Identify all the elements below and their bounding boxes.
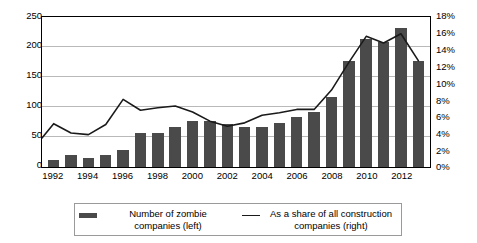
x-axis-tick: 2002 [217, 170, 238, 181]
bar-swatch-icon [79, 213, 97, 218]
bar [222, 124, 233, 167]
bar-slot [201, 17, 218, 167]
y-right-tick: 14% [436, 45, 476, 55]
x-axis-tick: 2006 [287, 170, 308, 181]
chart-figure: 250 200 150 100 50 0 18% 16% 14% 12% 10%… [0, 0, 477, 243]
bar-slot [149, 17, 166, 167]
bar-slot [80, 17, 97, 167]
bar-slot [97, 17, 114, 167]
line-swatch-icon [242, 215, 260, 216]
y-left-tick: 0 [6, 160, 42, 170]
bar [291, 117, 302, 167]
bar-slot [45, 17, 62, 167]
bar [413, 61, 424, 167]
legend-label-line-line1: As a share of all construction [270, 208, 392, 219]
x-axis: 1992199419961998200020022004200620082010… [41, 170, 431, 184]
y-right-tick: 8% [436, 96, 476, 106]
x-axis-tick: 1998 [147, 170, 168, 181]
bar [135, 133, 146, 167]
bar [343, 61, 354, 167]
y-left-tick: 200 [6, 40, 42, 50]
bar [395, 28, 406, 167]
y-right-tick: 6% [436, 112, 476, 122]
x-axis-tick: 2004 [252, 170, 273, 181]
bar-slot [62, 17, 79, 167]
y-right-tick: 10% [436, 79, 476, 89]
y-left-tick: 50 [6, 130, 42, 140]
x-axis-tick: 2010 [356, 170, 377, 181]
bar-slot [323, 17, 340, 167]
bar-slot [392, 17, 409, 167]
bar [83, 158, 94, 167]
bar-slot [114, 17, 131, 167]
y-right-tick: 18% [436, 11, 476, 21]
bar [117, 150, 128, 167]
y-right-tick: 0% [436, 162, 476, 172]
y-right-tick: 12% [436, 62, 476, 72]
bar [48, 160, 59, 167]
bar [308, 112, 319, 167]
x-axis-tick: 1994 [77, 170, 98, 181]
x-axis-tick: 2012 [391, 170, 412, 181]
bar [256, 127, 267, 167]
bar-slot [357, 17, 374, 167]
chart-legend: Number of zombie companies (left) As a s… [74, 203, 402, 236]
bar-slot [167, 17, 184, 167]
legend-label-bars-line2: companies (left) [134, 220, 202, 231]
legend-label-line-line2: companies (right) [294, 220, 367, 231]
bar [169, 127, 180, 167]
x-axis-tick: 1996 [112, 170, 133, 181]
bar [239, 127, 250, 167]
bar-slot [132, 17, 149, 167]
x-axis-tick: 2000 [182, 170, 203, 181]
y-right-tick: 4% [436, 129, 476, 139]
legend-item-bars: Number of zombie companies (left) [75, 208, 238, 231]
y-right-tick: 2% [436, 146, 476, 156]
y-left-tick: 250 [6, 11, 42, 21]
bar-slot [271, 17, 288, 167]
legend-label-bars-line1: Number of zombie [129, 208, 207, 219]
plot-area [41, 16, 431, 168]
y-right-tick: 16% [436, 28, 476, 38]
legend-item-line: As a share of all construction companies… [238, 208, 401, 231]
bar-slot [340, 17, 357, 167]
bar [152, 133, 163, 167]
bar [378, 42, 389, 167]
bar-slot [184, 17, 201, 167]
bar [187, 121, 198, 167]
bar-slot [305, 17, 322, 167]
y-left-tick: 150 [6, 70, 42, 80]
bar [100, 155, 111, 167]
bar-slot [375, 17, 392, 167]
bar-slot [410, 17, 427, 167]
legend-label-line: As a share of all construction companies… [265, 208, 397, 231]
bar [326, 97, 337, 167]
bar [274, 123, 285, 167]
legend-label-bars: Number of zombie companies (left) [102, 208, 234, 231]
bar-slot [236, 17, 253, 167]
y-left-tick: 100 [6, 100, 42, 110]
bar [360, 39, 371, 167]
x-axis-tick: 2008 [321, 170, 342, 181]
bar [65, 155, 76, 167]
x-axis-tick: 1992 [42, 170, 63, 181]
bar [204, 121, 215, 167]
bar-slot [288, 17, 305, 167]
bar-slot [253, 17, 270, 167]
bar-slot [219, 17, 236, 167]
bar-series [42, 17, 430, 167]
